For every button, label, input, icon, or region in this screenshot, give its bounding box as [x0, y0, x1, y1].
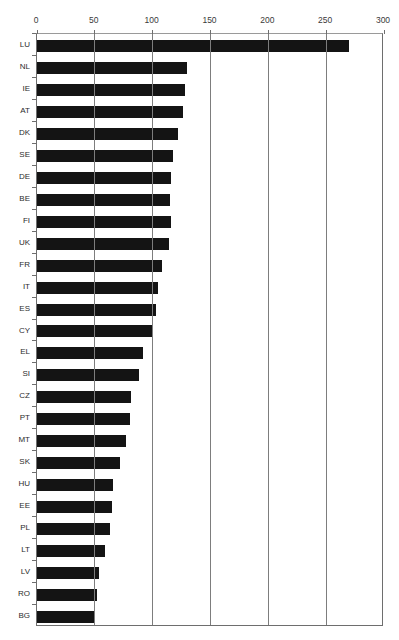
bar-DE	[37, 172, 171, 184]
y-tickmark	[32, 77, 36, 78]
y-tickmark	[32, 516, 36, 517]
bar-PT	[37, 413, 130, 425]
y-tickmark	[32, 55, 36, 56]
x-tickmark-0	[37, 30, 38, 34]
bar-PL	[37, 523, 110, 535]
y-axis-category-labels: LUNLIEATDKSEDEBEFIUKFRITESCYELSICZPTMTSK…	[0, 33, 36, 626]
x-tick-label-50: 50	[89, 14, 98, 26]
y-label-LV: LV	[21, 567, 30, 577]
y-label-HU: HU	[18, 479, 30, 489]
bar-LU	[37, 40, 349, 52]
top-edge-artifact-text	[150, 0, 395, 10]
y-tickmark	[32, 33, 36, 34]
y-tickmark	[32, 604, 36, 605]
y-label-MT: MT	[18, 435, 30, 445]
y-label-SI: SI	[22, 369, 30, 379]
x-tick-label-150: 150	[202, 14, 216, 26]
bar-DK	[37, 128, 178, 140]
bar-IE	[37, 84, 185, 96]
bar-SK	[37, 457, 120, 469]
bar-RO	[37, 589, 97, 601]
y-label-LT: LT	[21, 545, 30, 555]
bar-AT	[37, 106, 183, 118]
y-label-FI: FI	[23, 216, 30, 226]
y-label-DK: DK	[19, 128, 30, 138]
y-label-ES: ES	[19, 304, 30, 314]
y-tickmark	[32, 297, 36, 298]
bar-CZ	[37, 391, 131, 403]
y-label-PT: PT	[20, 413, 30, 423]
bar-HU	[37, 479, 113, 491]
y-tickmark	[32, 209, 36, 210]
bar-UK	[37, 238, 169, 250]
x-tick-label-300: 300	[376, 14, 390, 26]
y-label-BE: BE	[19, 194, 30, 204]
x-tickmark-250	[326, 30, 327, 34]
y-tickmark	[32, 165, 36, 166]
y-label-FR: FR	[19, 260, 30, 270]
y-label-IE: IE	[22, 84, 30, 94]
bar-LV	[37, 567, 99, 579]
y-tickmark	[32, 143, 36, 144]
y-tickmark	[32, 187, 36, 188]
x-axis-tick-labels: 050100150200250300	[0, 14, 399, 27]
y-label-EL: EL	[20, 347, 30, 357]
y-tickmark	[32, 450, 36, 451]
gridline-150	[210, 34, 211, 625]
y-label-NL: NL	[20, 62, 30, 72]
bar-EE	[37, 501, 112, 513]
y-tickmark	[32, 99, 36, 100]
bar-FR	[37, 260, 162, 272]
bar-BE	[37, 194, 170, 206]
y-tickmark	[32, 582, 36, 583]
y-label-CY: CY	[19, 326, 30, 336]
y-tickmark	[32, 340, 36, 341]
y-label-LU: LU	[20, 40, 30, 50]
bar-chart: 050100150200250300 LUNLIEATDKSEDEBEFIUKF…	[0, 0, 399, 640]
y-tickmark	[32, 428, 36, 429]
x-tickmark-300	[384, 30, 385, 34]
y-tickmark	[32, 275, 36, 276]
bar-MT	[37, 435, 126, 447]
y-label-IT: IT	[23, 282, 30, 292]
y-tickmark	[32, 362, 36, 363]
y-tickmark	[32, 472, 36, 473]
x-tickmark-50	[94, 30, 95, 34]
y-label-UK: UK	[19, 238, 30, 248]
y-tickmark	[32, 406, 36, 407]
y-label-SE: SE	[19, 150, 30, 160]
y-label-RO: RO	[18, 589, 30, 599]
y-label-AT: AT	[20, 106, 30, 116]
bar-EL	[37, 347, 143, 359]
bar-IT	[37, 282, 158, 294]
x-tickmark-200	[268, 30, 269, 34]
bar-NL	[37, 62, 187, 74]
y-tickmark	[32, 231, 36, 232]
y-tickmark	[32, 319, 36, 320]
bar-ES	[37, 304, 156, 316]
gridline-100	[152, 34, 153, 625]
gridline-200	[268, 34, 269, 625]
bar-FI	[37, 216, 171, 228]
x-tick-label-100: 100	[145, 14, 159, 26]
y-tickmark	[32, 121, 36, 122]
y-label-BG: BG	[18, 611, 30, 621]
y-label-PL: PL	[20, 523, 30, 533]
x-tick-label-250: 250	[318, 14, 332, 26]
y-label-CZ: CZ	[19, 391, 30, 401]
gridline-250	[326, 34, 327, 625]
y-label-DE: DE	[19, 172, 30, 182]
y-tickmark	[32, 253, 36, 254]
y-tickmark	[32, 494, 36, 495]
bar-SI	[37, 369, 139, 381]
y-tickmark	[32, 560, 36, 561]
y-label-SK: SK	[19, 457, 30, 467]
x-tick-label-0: 0	[34, 14, 39, 26]
x-tick-label-200: 200	[260, 14, 274, 26]
x-tickmark-150	[210, 30, 211, 34]
bar-BG	[37, 611, 95, 623]
gridline-50	[94, 34, 95, 625]
y-tickmark	[32, 384, 36, 385]
x-tickmark-100	[152, 30, 153, 34]
y-label-EE: EE	[19, 501, 30, 511]
